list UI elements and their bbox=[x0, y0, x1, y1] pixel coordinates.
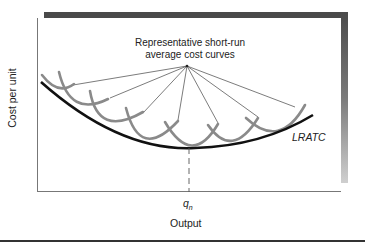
annotation-line-2: average cost curves bbox=[120, 49, 260, 61]
annotation-text: Representative short-run average cost cu… bbox=[120, 37, 260, 61]
lratc-label: LRATC bbox=[292, 131, 326, 143]
annotation-pointers bbox=[73, 66, 295, 123]
qn-tick-label: qn bbox=[183, 197, 193, 211]
srac-curves bbox=[42, 72, 305, 146]
srac-curve-4 bbox=[126, 108, 178, 139]
bottom-rule bbox=[0, 240, 365, 242]
x-axis-label: Output bbox=[170, 217, 202, 229]
qn-subscript: n bbox=[189, 204, 193, 211]
annotation-hub bbox=[186, 65, 189, 68]
y-axis-label: Cost per unit bbox=[6, 68, 18, 128]
annotation-line-1: Representative short-run bbox=[120, 37, 260, 49]
srac-curve-7 bbox=[246, 105, 305, 131]
